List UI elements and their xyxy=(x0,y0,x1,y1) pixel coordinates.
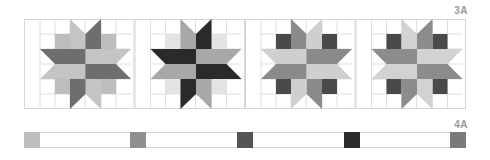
corner-square xyxy=(387,34,402,49)
corner-square xyxy=(387,79,402,94)
color-swatch-strip xyxy=(24,132,466,148)
swatch-4 xyxy=(344,132,360,148)
quilt-blocks-row xyxy=(24,19,466,109)
swatch-2 xyxy=(130,132,146,148)
corner-square xyxy=(433,79,448,94)
block-1 xyxy=(25,19,135,109)
corner-square xyxy=(433,34,448,49)
label-3a: 3A xyxy=(454,5,468,16)
swatch-1 xyxy=(24,132,40,148)
block-4 xyxy=(356,19,466,109)
corner-square xyxy=(322,34,337,49)
corner-square xyxy=(322,79,337,94)
block-3 xyxy=(246,19,356,109)
block-2 xyxy=(135,19,245,109)
corner-square xyxy=(276,34,291,49)
swatch-5 xyxy=(450,132,466,148)
label-4a: 4A xyxy=(454,119,468,130)
corner-square xyxy=(276,79,291,94)
swatch-3 xyxy=(237,132,253,148)
